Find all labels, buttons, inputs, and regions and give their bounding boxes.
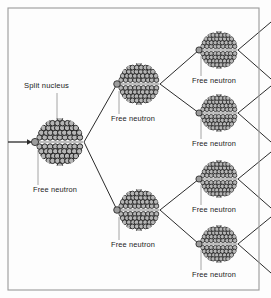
nucleon <box>150 69 155 74</box>
free-neutron-label: Free neutron <box>111 240 155 249</box>
free-neutron-particle <box>114 207 121 214</box>
split-nucleus-label: Split nucleus <box>24 81 69 90</box>
nucleon <box>229 231 233 235</box>
free-neutron-particle <box>196 176 202 182</box>
nucleon <box>150 220 155 225</box>
nucleon <box>229 100 233 104</box>
free-neutron-particle <box>31 138 38 145</box>
free-neutron-particle <box>196 110 202 116</box>
nucleon <box>229 122 233 126</box>
free-neutron-label: Free neutron <box>111 114 155 123</box>
free-neutron-label: Free neutron <box>192 76 236 85</box>
free-neutron-label: Free neutron <box>33 185 77 194</box>
free-neutron-particle <box>196 47 202 53</box>
free-neutron-label: Free neutron <box>192 205 236 214</box>
nucleon <box>229 166 233 170</box>
free-neutron-particle <box>196 241 202 247</box>
nucleon <box>229 188 233 192</box>
nucleon <box>229 37 233 41</box>
nucleon <box>150 94 155 99</box>
free-neutron-particle <box>114 81 121 88</box>
fission-chain-diagram: Free neutronSplit nucleusFree neutronFre… <box>0 0 271 298</box>
nucleon <box>73 125 79 131</box>
nucleon <box>150 195 155 200</box>
nucleon <box>229 253 233 257</box>
nucleon <box>73 153 79 159</box>
free-neutron-label: Free neutron <box>192 139 236 148</box>
nucleon <box>229 59 233 63</box>
diagram-canvas: Free neutronSplit nucleusFree neutronFre… <box>0 0 271 298</box>
free-neutron-label: Free neutron <box>192 270 236 279</box>
